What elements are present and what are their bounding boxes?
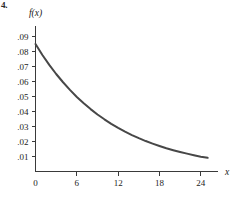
y-tick-label: .03 (17, 122, 29, 132)
y-tick-label: .07 (17, 62, 29, 72)
x-axis-tick-labels: 06121824 (33, 178, 206, 188)
x-axis-group: 06121824 x (33, 167, 230, 188)
y-axis-group: .01.02.03.04.05.06.07.08.09 f(x) (17, 8, 42, 172)
x-tick-label: 24 (196, 178, 206, 188)
exponential-decay-chart: .01.02.03.04.05.06.07.08.09 f(x) 0612182… (0, 0, 239, 203)
y-axis-tick-labels: .01.02.03.04.05.06.07.08.09 (17, 32, 29, 162)
x-tick-label: 18 (155, 178, 165, 188)
x-tick-label: 12 (114, 178, 123, 188)
y-tick-label: .04 (17, 107, 29, 117)
y-axis-ticks (32, 37, 36, 157)
y-tick-label: .01 (17, 152, 28, 162)
x-tick-label: 6 (75, 178, 80, 188)
y-tick-label: .08 (17, 47, 29, 57)
data-curve-fx (36, 44, 208, 158)
y-axis-title: f(x) (29, 8, 42, 19)
y-tick-label: .06 (17, 77, 29, 87)
x-tick-label: 0 (33, 178, 38, 188)
x-axis-title: x (224, 167, 230, 177)
x-axis-ticks (77, 172, 201, 176)
y-tick-label: .09 (17, 32, 29, 42)
y-tick-label: .05 (17, 92, 29, 102)
y-tick-label: .02 (17, 137, 28, 147)
figure-container: 4. .01.02.03.04.05.06.07.08.09 f(x) 0612… (0, 0, 239, 203)
